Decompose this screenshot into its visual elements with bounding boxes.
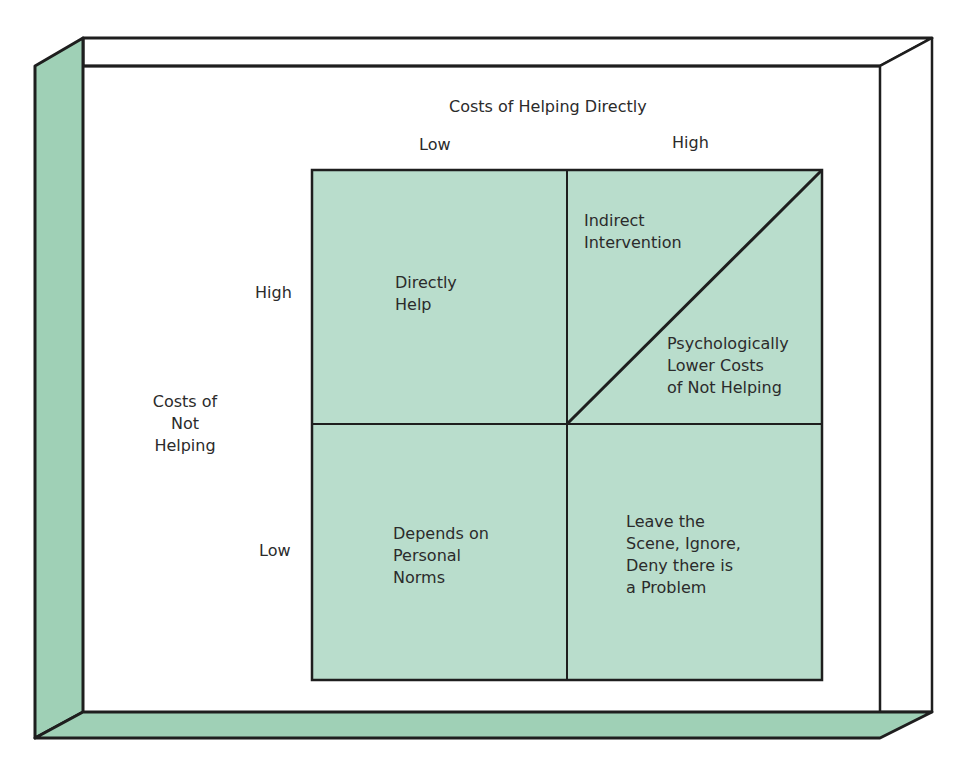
y-axis-title: Costs of Not Helping	[130, 391, 240, 457]
y-axis-high-label: High	[255, 282, 292, 304]
frame-top-bevel	[83, 38, 932, 66]
frame-right-bevel	[880, 38, 932, 712]
frame-bottom-side	[35, 712, 932, 738]
quadrant-indirect-intervention: Indirect Intervention	[584, 210, 682, 254]
quadrant-leave-the-scene: Leave the Scene, Ignore, Deny there is a…	[626, 511, 741, 599]
x-axis-title: Costs of Helping Directly	[449, 96, 647, 118]
frame-left-side	[35, 38, 83, 738]
y-axis-low-label: Low	[259, 540, 291, 562]
x-axis-low-label: Low	[419, 134, 451, 156]
quadrant-depends-on-norms: Depends on Personal Norms	[393, 523, 489, 589]
quadrant-directly-help: Directly Help	[395, 272, 457, 316]
quadrant-psychologically-lower-costs: Psychologically Lower Costs of Not Helpi…	[667, 333, 789, 399]
x-axis-high-label: High	[672, 132, 709, 154]
